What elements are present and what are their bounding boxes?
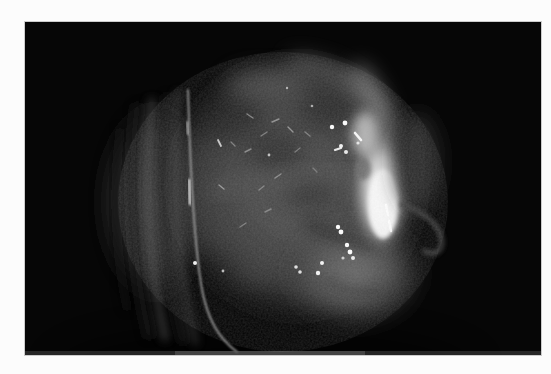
film-grain [118, 52, 448, 352]
endoscopic-photo [25, 22, 541, 355]
page [0, 0, 551, 374]
photo-canvas [25, 22, 541, 355]
